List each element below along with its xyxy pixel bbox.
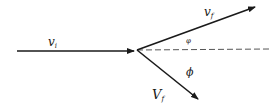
scattered-vector xyxy=(137,7,255,50)
lower-angle-label: ϕ xyxy=(186,66,194,79)
reference-axis xyxy=(137,49,270,50)
incoming-label: vi xyxy=(48,35,57,50)
scattered-label: vf xyxy=(204,5,215,20)
upper-angle-label: φ xyxy=(186,37,191,45)
recoil-label: Vf xyxy=(152,87,165,103)
collision-diagram: vi vf Vf φ ϕ xyxy=(0,0,279,111)
